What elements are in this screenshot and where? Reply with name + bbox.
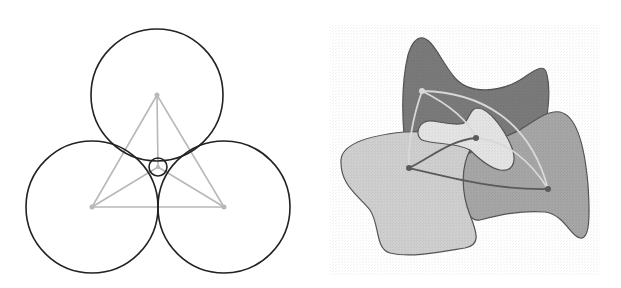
diagram-svg [0, 0, 621, 288]
diagram-canvas [0, 0, 621, 288]
texture-overlay [330, 25, 600, 275]
tangent-circles-figure [26, 29, 290, 273]
center-triangle [92, 95, 224, 207]
overlapping-regions-figure [330, 25, 600, 275]
